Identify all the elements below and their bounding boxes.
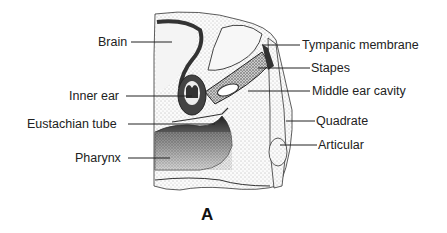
label-quadrate: Quadrate bbox=[316, 114, 368, 128]
label-middle-ear-cavity: Middle ear cavity bbox=[312, 84, 406, 98]
label-eustachian-tube: Eustachian tube bbox=[27, 117, 117, 131]
articular-bone bbox=[269, 138, 287, 166]
label-brain: Brain bbox=[98, 35, 127, 49]
label-articular: Articular bbox=[318, 138, 364, 152]
panel-label: A bbox=[201, 205, 213, 225]
label-stapes: Stapes bbox=[311, 61, 350, 75]
label-inner-ear: Inner ear bbox=[69, 89, 119, 103]
label-pharynx: Pharynx bbox=[75, 151, 121, 165]
label-tympanic-membrane: Tympanic membrane bbox=[302, 38, 419, 52]
